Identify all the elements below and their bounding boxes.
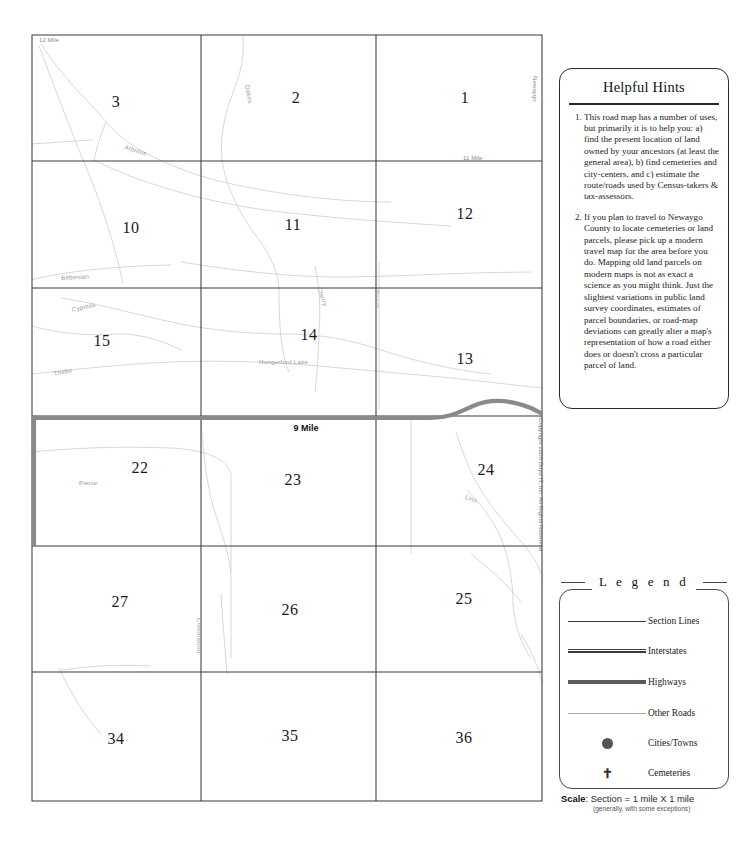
section-number[interactable]: 25 <box>456 590 473 608</box>
legend-row-highways: Highways <box>560 669 730 695</box>
boundary-label-12-mile: 12 Mile <box>39 36 59 43</box>
other-road-line-sample <box>560 713 648 714</box>
section-number[interactable]: 13 <box>457 350 474 368</box>
city-dot-icon <box>560 738 648 749</box>
scale-block: Scale: Section = 1 mile X 1 mile (genera… <box>561 793 747 812</box>
legend-row-interstates: Interstates <box>560 638 730 664</box>
section-number[interactable]: 22 <box>132 459 149 477</box>
helpful-hints-title: Helpful Hints <box>560 69 728 103</box>
road-label-cottonwood: Cottonwood <box>196 618 203 653</box>
map-page: 12 Mile 11 Mile Newaygo 9 Mile 3 2 1 10 … <box>0 0 753 860</box>
legend-title-bar: L e g e n d <box>559 572 729 592</box>
hints-list: This road map has a number of uses, but … <box>560 112 728 372</box>
road-label-hungerford-lake: Hungerford Lake <box>259 358 308 365</box>
copyright-notice: Copyright 2008 Boyd IT, Inc. All Rights … <box>538 418 545 551</box>
section-number[interactable]: 36 <box>456 729 473 747</box>
legend-title: L e g e n d <box>592 574 696 590</box>
boundary-label-11-mile: 11 Mile <box>463 154 483 161</box>
boundary-label-newaygo: Newaygo <box>532 76 539 102</box>
section-number[interactable]: 23 <box>285 471 302 489</box>
other-roads-layer <box>31 36 543 734</box>
section-number[interactable]: 12 <box>457 205 474 223</box>
legend-rule-right <box>703 582 727 583</box>
section-number[interactable]: 34 <box>108 730 125 748</box>
section-number[interactable]: 15 <box>94 332 111 350</box>
highway-label-9-mile: 9 Mile <box>293 423 318 433</box>
legend-label: Interstates <box>648 646 687 656</box>
scale-line: Scale: Section = 1 mile X 1 mile <box>561 793 747 804</box>
section-number[interactable]: 1 <box>461 89 470 107</box>
section-number[interactable]: 27 <box>112 593 129 611</box>
section-map[interactable]: 12 Mile 11 Mile Newaygo 9 Mile 3 2 1 10 … <box>31 34 543 802</box>
legend-label: Other Roads <box>648 708 695 718</box>
interstate-line-sample <box>560 648 648 654</box>
legend-label: Cemeteries <box>648 768 690 778</box>
legend-row-cities-towns: Cities/Towns <box>560 730 730 756</box>
section-number[interactable]: 11 <box>285 216 301 234</box>
legend-label: Cities/Towns <box>648 738 697 748</box>
section-number[interactable]: 3 <box>112 93 121 111</box>
section-line-sample <box>560 621 648 622</box>
section-number[interactable]: 10 <box>123 219 140 237</box>
hint-item: This road map has a number of uses, but … <box>584 112 719 203</box>
road-label-bebenian: Bebenian <box>61 273 89 281</box>
hint-item: If you plan to travel to Newaygo County … <box>584 212 719 372</box>
road-label-pierce: Pierce <box>79 479 98 486</box>
scale-value: Section = 1 mile X 1 mile <box>591 793 694 804</box>
section-number[interactable]: 26 <box>282 601 299 619</box>
hints-divider <box>569 103 719 105</box>
map-lines <box>31 34 543 802</box>
scale-label: Scale <box>561 793 586 804</box>
legend-label: Section Lines <box>648 616 699 626</box>
section-number[interactable]: 35 <box>282 727 299 745</box>
cemetery-cross-icon: ✝ <box>560 767 648 780</box>
legend-label: Highways <box>648 677 686 687</box>
section-number[interactable]: 2 <box>292 89 301 107</box>
legend-rule-left <box>561 582 585 583</box>
legend-panel: Section Lines Interstates Highways Other… <box>559 589 729 789</box>
legend-row-section-lines: Section Lines <box>560 608 730 634</box>
legend-row-cemeteries: ✝ Cemeteries <box>560 760 730 786</box>
legend-row-other-roads: Other Roads <box>560 700 730 726</box>
section-number[interactable]: 14 <box>301 326 318 344</box>
helpful-hints-panel: Helpful Hints This road map has a number… <box>559 68 729 409</box>
scale-note: (generally, with some exceptions) <box>593 805 747 812</box>
road-label-beech: Beech <box>374 290 381 309</box>
highway-line-sample <box>560 680 648 683</box>
section-number[interactable]: 24 <box>478 461 495 479</box>
